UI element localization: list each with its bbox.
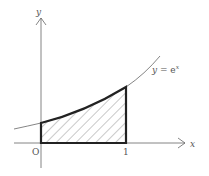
x-axis-label: x: [190, 139, 195, 149]
y-axis: [36, 18, 46, 168]
function-label-eq: =: [157, 65, 170, 75]
origin-label: O: [32, 147, 39, 157]
svg-text:y = ex: y = ex: [151, 63, 180, 75]
diagram-canvas: y x O 1 y = ex: [0, 0, 209, 176]
shaded-region: [41, 80, 127, 144]
x-tick-label-1: 1: [123, 147, 129, 157]
y-axis-label: y: [35, 7, 42, 17]
function-label-exp: x: [176, 63, 180, 70]
function-label: y = ex: [151, 63, 180, 75]
